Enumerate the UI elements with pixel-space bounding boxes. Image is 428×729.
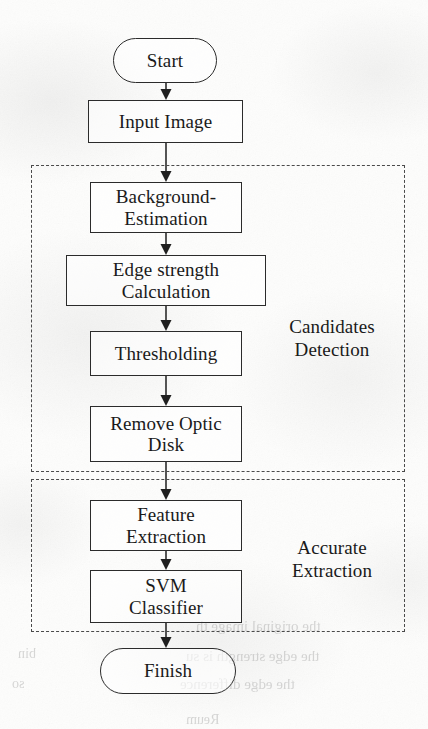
scanned-flowchart-page: the original image ththe edge strength i…: [0, 0, 428, 729]
node-feature: FeatureExtraction: [90, 500, 242, 551]
node-svm: SVMClassifier: [90, 570, 242, 623]
group-label-line: Extraction: [292, 560, 372, 581]
node-label: Finish: [144, 660, 192, 681]
group-label-line: Accurate: [297, 537, 366, 558]
node-label: Edge strengthCalculation: [113, 259, 219, 302]
group-label-accurate-extraction: AccurateExtraction: [268, 537, 396, 583]
node-threshold: Thresholding: [90, 331, 242, 376]
flowchart-diagram: CandidatesDetectionAccurateExtractionSta…: [0, 0, 428, 729]
node-label: SVMClassifier: [129, 575, 203, 618]
node-label: FeatureExtraction: [126, 504, 206, 547]
node-label: Remove OpticDisk: [110, 413, 221, 456]
group-label-line: Candidates: [289, 316, 374, 337]
node-label: Input Image: [119, 111, 212, 132]
node-start: Start: [113, 38, 217, 83]
node-finish: Finish: [100, 648, 236, 694]
group-label-candidates-detection: CandidatesDetection: [268, 316, 396, 362]
group-label-line: Detection: [295, 339, 370, 360]
node-optic: Remove OpticDisk: [90, 406, 242, 462]
node-label: Background-Estimation: [116, 186, 216, 229]
node-background: Background-Estimation: [90, 182, 242, 233]
node-label: Start: [147, 50, 183, 71]
node-edge: Edge strengthCalculation: [66, 255, 266, 306]
node-label: Thresholding: [115, 343, 218, 364]
node-input: Input Image: [88, 100, 243, 143]
